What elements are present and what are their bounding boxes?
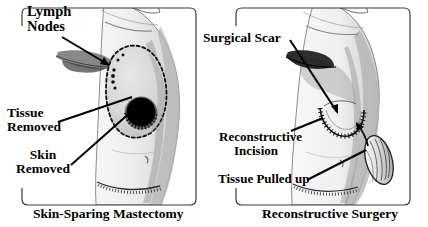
label-lymph-nodes-line1: Lymph bbox=[27, 4, 71, 19]
label-skin-removed: Skin Removed bbox=[7, 148, 79, 176]
label-skin-removed-line1: Skin bbox=[7, 148, 79, 162]
label-surgical-scar: Surgical Scar bbox=[203, 31, 281, 45]
caption-right-panel: Reconstructive Surgery bbox=[262, 206, 398, 222]
label-lymph-nodes: Lymph Nodes bbox=[27, 4, 71, 34]
label-tissue-removed-line2: Removed bbox=[7, 120, 61, 134]
label-surgical-scar-line1: Surgical Scar bbox=[203, 31, 281, 45]
label-tissue-removed: Tissue Removed bbox=[7, 106, 61, 134]
label-tissue-pulled-up-line1: Tissue Pulled up bbox=[218, 172, 310, 185]
medical-illustration-figure: Lymph Nodes Tissue Removed Skin Removed … bbox=[0, 0, 428, 227]
label-reconstructive-incision-line2: Incision bbox=[219, 144, 293, 158]
label-reconstructive-incision-line1: Reconstructive bbox=[219, 130, 293, 144]
label-lymph-nodes-line2: Nodes bbox=[27, 19, 71, 34]
caption-left-panel: Skin-Sparing Mastectomy bbox=[33, 206, 183, 222]
label-tissue-removed-line1: Tissue bbox=[7, 106, 61, 120]
label-tissue-pulled-up: Tissue Pulled up bbox=[218, 172, 310, 185]
label-skin-removed-line2: Removed bbox=[7, 162, 79, 176]
label-reconstructive-incision: Reconstructive Incision bbox=[219, 130, 293, 157]
